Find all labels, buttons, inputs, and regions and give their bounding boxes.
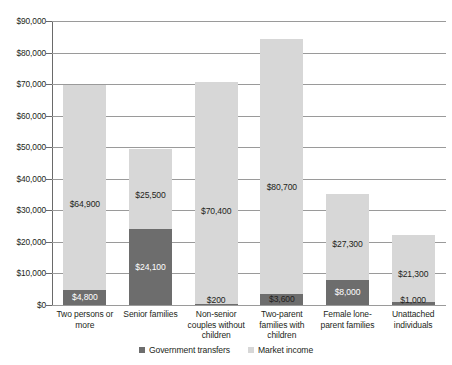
x-axis-category-label: Senior families [114,309,188,320]
bar-label-government-transfers: $3,600 [252,293,311,305]
bar-label-government-transfers: $1,000 [384,294,443,306]
legend-label: Government transfers [149,345,230,355]
bar-segment-market-income[interactable] [63,85,106,290]
y-axis-tick-label: $70,000 [2,78,46,90]
bar-label-government-transfers: $4,800 [55,291,114,303]
x-axis-category-label-line: children [245,330,319,341]
y-axis-tick-label: $10,000 [2,267,46,279]
x-axis-category-label-line: Two persons or [48,309,122,320]
legend-item[interactable]: Government transfers [139,345,230,355]
bar-stack[interactable]: $70,400$200 [195,21,238,305]
stacked-bar-chart: $90,000$80,000$70,000$60,000$50,000$40,0… [0,0,452,365]
y-axis-tick-label: $0 [2,299,46,311]
x-axis-category-label-line: couples without [179,320,253,331]
bars-layer: $64,900$4,800$25,500$24,100$70,400$200$8… [52,21,446,305]
bar-stack[interactable]: $80,700$3,600 [260,21,303,305]
bar-label-market-income: $70,400 [187,205,246,217]
x-axis-category-label-line: Unattached [376,309,450,320]
bar-label-market-income: $21,300 [384,268,443,280]
x-axis-category-label-line: children [179,330,253,341]
x-axis-category-label: Unattachedindividuals [376,309,450,330]
y-axis-tick-label: $60,000 [2,110,46,122]
y-axis-tick-label: $40,000 [2,173,46,185]
y-axis-tick-label: $50,000 [2,141,46,153]
bar-label-government-transfers: $8,000 [318,286,377,298]
y-axis-tick-label: $80,000 [2,47,46,59]
bar-label-government-transfers: $24,100 [121,261,180,273]
y-axis-tick-label: $20,000 [2,236,46,248]
x-axis-category-label: Female lone-parent families [311,309,385,330]
x-axis-category-label: Non-seniorcouples withoutchildren [179,309,253,341]
legend-swatch-icon [139,347,145,353]
x-axis-category-label-line: more [48,320,122,331]
bar-label-market-income: $80,700 [252,181,311,193]
legend-swatch-icon [248,347,254,353]
bar-label-government-transfers: $200 [187,294,246,306]
x-axis-category-label-line: Senior families [114,309,188,320]
bar-segment-market-income[interactable] [260,39,303,294]
y-axis-tick-label: $30,000 [2,204,46,216]
bar-label-market-income: $27,300 [318,238,377,250]
bar-segment-market-income[interactable] [195,82,238,304]
chart-legend: Government transfersMarket income [0,345,452,355]
y-axis-tick [46,305,52,306]
bar-label-market-income: $64,900 [55,198,114,210]
x-axis-category-label-line: Two-parent [245,309,319,320]
legend-item[interactable]: Market income [248,345,313,355]
bar-stack[interactable]: $25,500$24,100 [129,21,172,305]
x-axis-category-label-line: individuals [376,320,450,331]
x-axis-category-label-line: Female lone- [311,309,385,320]
bar-stack[interactable]: $21,300$1,000 [392,21,435,305]
bar-stack[interactable]: $64,900$4,800 [63,21,106,305]
bar-stack[interactable]: $27,300$8,000 [326,21,369,305]
x-axis-category-label: Two persons ormore [48,309,122,330]
x-axis-category-label-line: families with [245,320,319,331]
x-axis-category-label-line: parent families [311,320,385,331]
bar-label-market-income: $25,500 [121,189,180,201]
legend-label: Market income [258,345,313,355]
y-axis-tick-label: $90,000 [2,15,46,27]
x-axis-category-label: Two-parentfamilies withchildren [245,309,319,341]
x-axis-category-label-line: Non-senior [179,309,253,320]
